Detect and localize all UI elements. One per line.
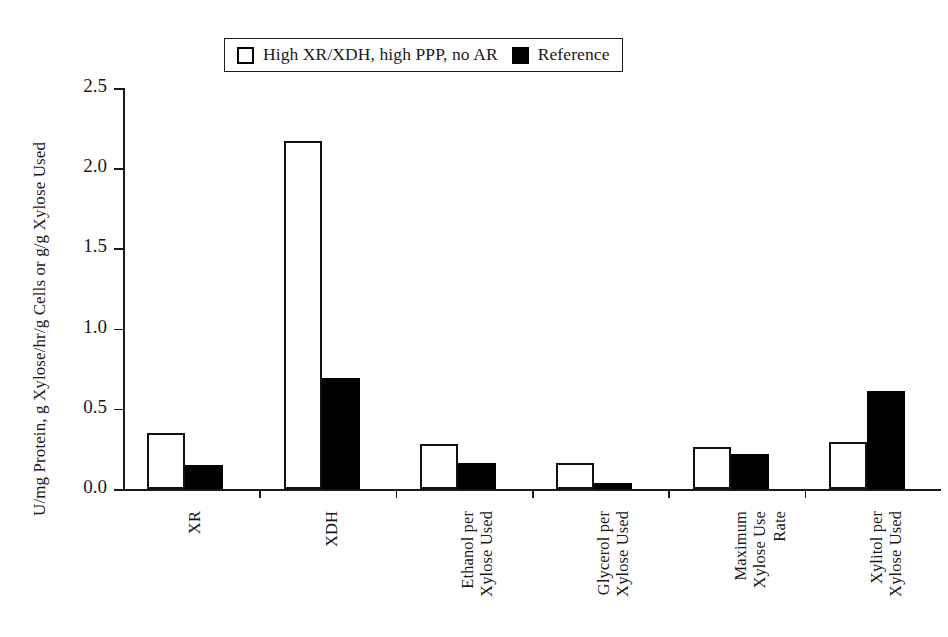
legend-swatch-filled-icon [512,47,529,64]
bar [556,463,594,489]
y-axis-tick-label: 0.5 [83,397,107,416]
x-axis-category-labels: XRXDHEthanol per Xylose UsedGlycerol per… [123,503,941,637]
x-axis-category-label: XR [185,511,204,637]
y-axis-tick: 1.0 [114,329,123,331]
x-axis-tick [668,489,670,498]
legend-entry-high-xr-xdh: High XR/XDH, high PPP, no AR [237,46,498,64]
x-axis-category-label: XDH [322,511,341,637]
x-axis-category-label: Glycerol per Xylose Used [594,511,633,637]
x-axis-category-label: Xylitol per Xylose Used [867,511,906,637]
y-axis-tick-label: 1.5 [83,236,107,255]
x-axis-category-label: Ethanol per Xylose Used [458,511,497,637]
legend-label-series-2: Reference [538,46,610,64]
x-axis-tick [396,489,398,498]
legend-swatch-hollow-icon [237,47,254,64]
bar [458,463,496,489]
bar [693,447,731,489]
y-axis-tick: 2.0 [114,168,123,170]
bar [420,444,458,489]
x-axis-category-label: Maximum Xylose Use Rate [731,511,789,637]
bar [867,391,905,489]
y-axis-title: U/mg Protein, g Xylose/hr/g Cells or g/g… [30,0,60,516]
y-axis-tick-label: 0.0 [83,477,107,496]
y-axis-tick: 0.0 [114,489,123,491]
plot-area: 0.00.51.01.52.02.5 [123,88,941,489]
legend-label-series-1: High XR/XDH, high PPP, no AR [263,46,498,64]
bar-chart-figure: High XR/XDH, high PPP, no AR Reference U… [0,0,948,637]
bar [185,465,223,489]
x-axis-tick [259,489,261,498]
bar [322,378,360,489]
y-axis-tick: 1.5 [114,248,123,250]
bar [147,433,185,489]
y-axis-tick-label: 2.0 [83,156,107,175]
y-axis-tick-label: 1.0 [83,317,107,336]
x-axis-tick [805,489,807,498]
legend-entry-reference: Reference [512,46,610,64]
bar [284,141,322,489]
bar [829,442,867,489]
y-axis-tick-label: 2.5 [83,76,107,95]
y-axis-tick: 0.5 [114,409,123,411]
chart-legend: High XR/XDH, high PPP, no AR Reference [224,38,623,72]
bar [731,454,769,489]
y-axis-tick: 2.5 [114,88,123,90]
bar [594,483,632,489]
x-axis-tick [532,489,534,498]
y-axis-line [123,88,125,489]
